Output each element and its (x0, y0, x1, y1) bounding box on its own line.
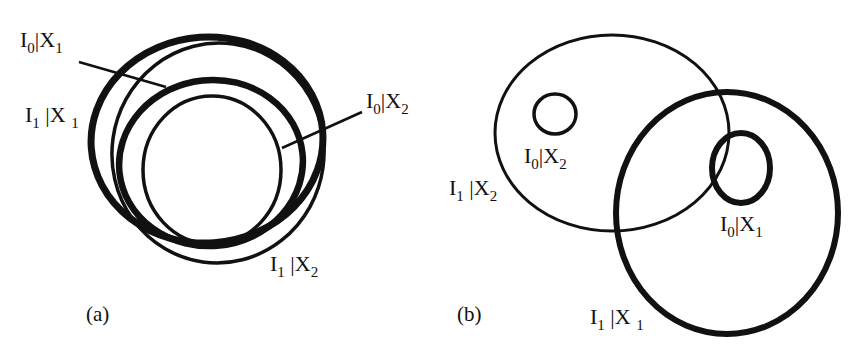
label-subscript: 2 (401, 101, 409, 117)
label-subscript: 1 (636, 317, 644, 333)
label-b-i1-x1: I1 |X 1 (590, 306, 644, 328)
diagram-canvas (0, 0, 856, 357)
label-letter: X (543, 143, 559, 168)
label-subscript: 1 (71, 115, 79, 131)
label-subscript: 1 (277, 264, 285, 280)
label-subscript: 0 (27, 40, 35, 56)
label-subscript: 2 (559, 156, 567, 172)
label-subscript: 1 (755, 224, 763, 240)
panel-caption-a: (a) (86, 302, 109, 327)
label-a-i1-x1: I1 |X 1 (25, 104, 79, 126)
label-letter: X (39, 27, 55, 52)
label-letter: X (615, 304, 631, 329)
region-i0-x2-outline (143, 96, 281, 244)
panel-b-shapes (495, 35, 838, 334)
label-a-i0-x1: I0|X1 (20, 29, 63, 51)
label-subscript: 1 (32, 115, 40, 131)
panel-a-shapes (79, 29, 362, 277)
label-subscript: 0 (531, 156, 539, 172)
panel-caption-b: (b) (457, 302, 482, 327)
label-subscript: 2 (311, 264, 319, 280)
region-i0-x2-outline (534, 94, 576, 134)
label-subscript: 1 (55, 40, 63, 56)
label-subscript: 0 (727, 224, 735, 240)
label-letter: X (295, 251, 311, 276)
label-subscript: 1 (597, 317, 605, 333)
label-b-i0-x2: I0|X2 (524, 145, 567, 167)
label-subscript: 0 (373, 101, 381, 117)
region-i1-x2-outline (495, 35, 729, 231)
label-letter: X (50, 102, 66, 127)
label-a-i1-x2: I1 |X2 (270, 253, 318, 275)
label-b-i0-x1: I0|X1 (720, 213, 763, 235)
label-subscript: 1 (456, 188, 464, 204)
label-a-i0-x2: I0|X2 (366, 90, 409, 112)
label-b-i1-x2: I1 |X2 (449, 177, 497, 199)
label-subscript: 2 (490, 188, 498, 204)
label-letter: X (385, 88, 401, 113)
label-letter: X (474, 175, 490, 200)
label-letter: X (739, 211, 755, 236)
